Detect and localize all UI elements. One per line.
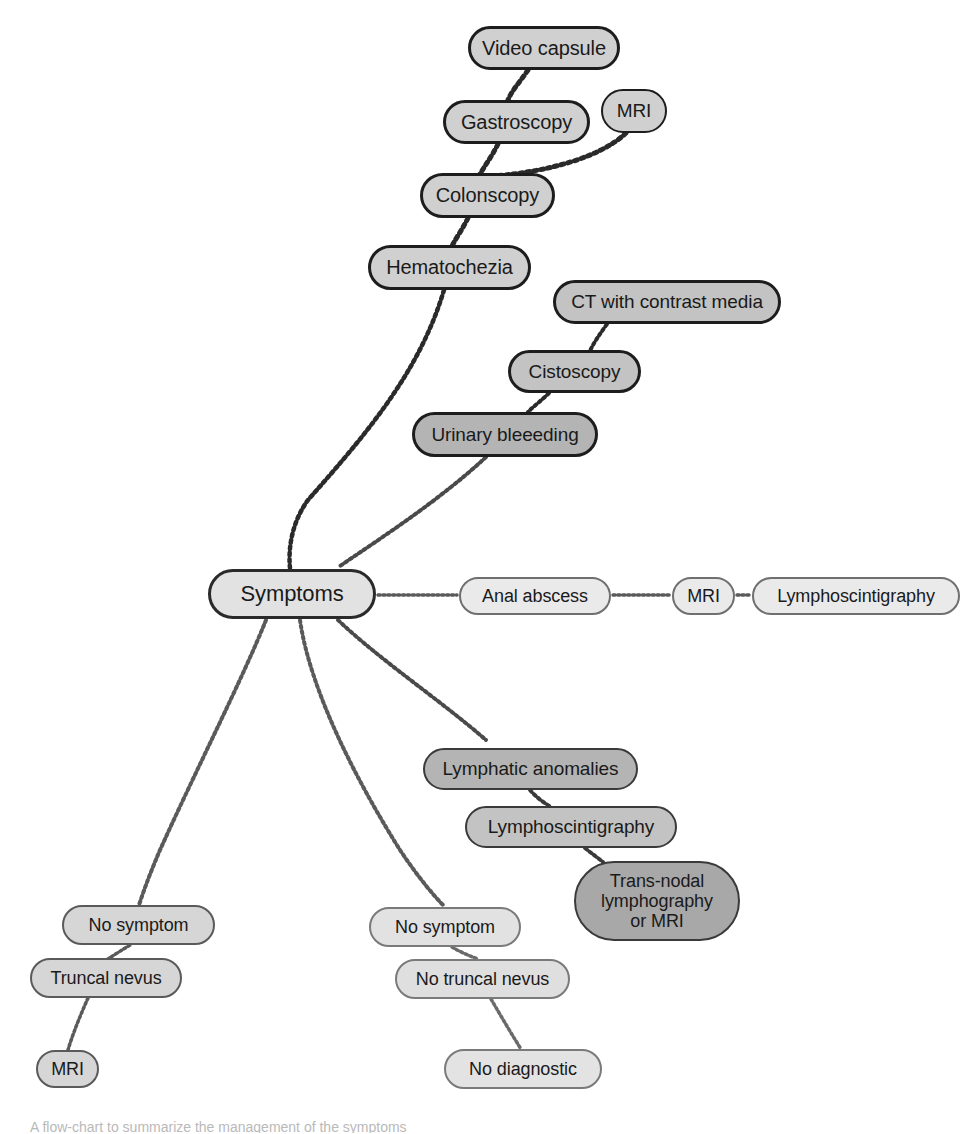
edge-symptoms-to-no_symptom_left (139, 620, 266, 905)
edge-no_symptom_left-to-truncal_nevus (108, 945, 130, 959)
node-mri_bottom[interactable]: MRI (36, 1050, 99, 1088)
node-lymphoscint_row[interactable]: Lymphoscintigraphy (752, 577, 960, 615)
node-mri_upper[interactable]: MRI (601, 89, 667, 133)
edge-urinary_bleeding-to-symptoms (340, 457, 486, 566)
node-no_symptom_right[interactable]: No symptom (369, 907, 521, 947)
node-hematochezia[interactable]: Hematochezia (368, 245, 531, 290)
node-no_diagnostic[interactable]: No diagnostic (444, 1049, 602, 1089)
figure-caption: A flow-chart to summarize the management… (30, 1121, 930, 1133)
node-colonscopy[interactable]: Colonscopy (420, 173, 555, 218)
node-urinary_bleeding[interactable]: Urinary bleeeding (412, 412, 598, 457)
node-no_truncal_nevus[interactable]: No truncal nevus (395, 959, 570, 999)
node-gastroscopy[interactable]: Gastroscopy (443, 100, 590, 144)
edge-lymphoscint_branch-to-trans_nodal (585, 848, 603, 862)
edge-gastroscopy-to-colonscopy (480, 144, 498, 174)
node-ct_contrast[interactable]: CT with contrast media (553, 280, 781, 324)
edge-cistoscopy-to-urinary_bleeding (528, 393, 549, 412)
node-no_symptom_left[interactable]: No symptom (62, 905, 215, 945)
node-anal_abscess[interactable]: Anal abscess (459, 577, 611, 615)
node-lymphoscint_branch[interactable]: Lymphoscintigraphy (465, 806, 677, 848)
node-cistoscopy[interactable]: Cistoscopy (508, 350, 641, 393)
edge-no_symptom_right-to-no_truncal_nevus (452, 947, 478, 959)
node-symptoms[interactable]: Symptoms (208, 569, 376, 619)
edge-colonscopy-to-hematochezia (452, 218, 468, 246)
edge-symptoms-to-no_symptom_right (300, 620, 444, 906)
node-trans_nodal[interactable]: Trans-nodal lymphography or MRI (574, 861, 740, 941)
node-truncal_nevus[interactable]: Truncal nevus (30, 958, 182, 998)
node-video_capsule[interactable]: Video capsule (468, 26, 620, 70)
edge-truncal_nevus-to-mri_bottom (68, 998, 88, 1050)
node-lymphatic_anom[interactable]: Lymphatic anomalies (423, 748, 638, 790)
edge-ct_contrast-to-cistoscopy (590, 324, 607, 351)
edge-lymphatic_anom-to-lymphoscint_branch (530, 790, 551, 807)
node-mri_row[interactable]: MRI (672, 577, 735, 615)
edge-video_capsule-to-gastroscopy (508, 70, 528, 100)
edge-symptoms-to-lymphatic_anom (338, 620, 486, 740)
flowchart-canvas: Video capsuleGastroscopyMRIColonscopyHem… (0, 0, 976, 1134)
edge-no_truncal_nevus-to-no_diagnostic (491, 999, 521, 1049)
